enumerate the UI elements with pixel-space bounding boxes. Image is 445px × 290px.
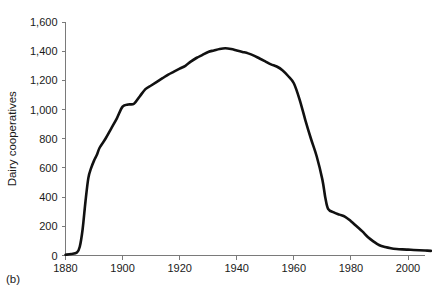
y-axis-tick-label: 600 [39,162,57,174]
y-axis-title: Dairy cooperatives [6,91,18,186]
panel-label: (b) [6,273,20,285]
x-axis-tick-label: 2000 [396,262,420,274]
x-axis-tick-label: 1900 [110,262,134,274]
y-axis-tick-label: 1,400 [30,45,58,57]
x-axis-tick-group: 1880190019201940196019802000 [53,256,420,274]
y-axis-tick-label: 200 [39,220,57,232]
x-axis-tick-label: 1940 [225,262,249,274]
chart-canvas: 02004006008001,0001,2001,4001,600 188019… [0,0,445,290]
dairy-cooperatives-figure: 02004006008001,0001,2001,4001,600 188019… [0,0,445,290]
y-axis-tick-label: 1,200 [30,74,58,86]
x-axis-tick-label: 1880 [53,262,77,274]
y-axis-tick-label: 1,600 [30,16,58,28]
y-axis-tick-group: 02004006008001,0001,2001,4001,600 [30,16,66,262]
y-axis-tick-label: 800 [39,133,57,145]
dairy-cooperatives-line [66,48,431,255]
y-axis-tick-label: 1,000 [30,104,58,116]
y-axis-tick-label: 0 [51,250,57,262]
x-axis-tick-label: 1980 [339,262,363,274]
x-axis-tick-label: 1920 [167,262,191,274]
x-axis-tick-label: 1960 [282,262,306,274]
y-axis-tick-label: 400 [39,191,57,203]
